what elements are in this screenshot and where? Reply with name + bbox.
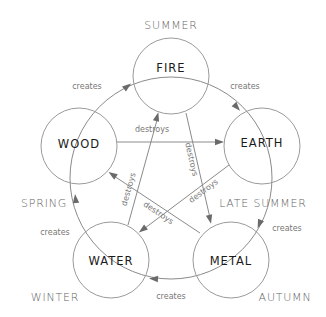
arrow-wood-to-fire-icon	[122, 81, 133, 92]
arrow-metal-to-wood-icon	[107, 169, 118, 179]
five-elements-diagram: FIRE EARTH METAL WATER WOOD SUMMER LATE …	[0, 0, 326, 317]
season-summer: SUMMER	[144, 19, 197, 32]
water-label: WATER	[89, 254, 134, 268]
arrow-fire-to-metal-icon	[206, 214, 214, 224]
creates-label-earth-metal: creates	[272, 224, 302, 233]
fire-label: FIRE	[156, 61, 185, 75]
season-spring: SPRING	[21, 197, 67, 210]
fire-circle	[133, 38, 209, 114]
destroys-label-earth-water: destroys	[187, 177, 220, 205]
metal-label: METAL	[210, 254, 253, 268]
element-labels: FIRE EARTH METAL WATER WOOD	[58, 61, 284, 268]
arrow-wood-to-earth-icon	[215, 139, 224, 145]
creates-label-water-wood: creates	[40, 228, 70, 237]
destroys-label-wood-earth: destroys	[135, 125, 169, 134]
destroys-earth-water-line	[145, 165, 229, 228]
creates-cycle	[70, 77, 272, 282]
destroys-labels: destroys destroys destroys destroys dest…	[120, 125, 220, 226]
creates-labels: creates creates creates creates creates	[40, 82, 302, 301]
season-late-summer: LATE SUMMER	[219, 197, 307, 210]
wood-label: WOOD	[58, 137, 100, 151]
arrow-fire-to-earth-icon	[232, 102, 243, 113]
season-winter: WINTER	[31, 291, 79, 304]
creates-label-metal-water: creates	[156, 292, 186, 301]
destroys-label-fire-metal: destroys	[183, 142, 199, 177]
creates-label-wood-fire: creates	[72, 82, 102, 91]
arrow-water-to-fire-icon	[153, 111, 162, 121]
season-autumn: AUTUMN	[259, 291, 312, 304]
earth-label: EARTH	[241, 136, 284, 150]
creates-label-fire-earth: creates	[230, 82, 260, 91]
